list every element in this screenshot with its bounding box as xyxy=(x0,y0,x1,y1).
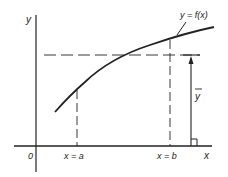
x-b-label: x = b xyxy=(156,151,177,161)
curve-label: y = f(x) xyxy=(179,10,208,20)
right-angle-icon xyxy=(191,139,197,146)
x-a-label: x = a xyxy=(63,151,84,161)
curve-f-x xyxy=(55,27,214,112)
curve-label-pointer xyxy=(177,22,186,35)
mean-value-diagram: y x 0 y = f(x) x = a x = b y xyxy=(0,0,228,177)
mean-value-label: y xyxy=(194,91,201,102)
y-axis-label: y xyxy=(25,14,32,25)
arrow-head-icon xyxy=(189,56,194,64)
origin-label: 0 xyxy=(28,151,33,161)
x-axis-label: x xyxy=(203,150,210,161)
